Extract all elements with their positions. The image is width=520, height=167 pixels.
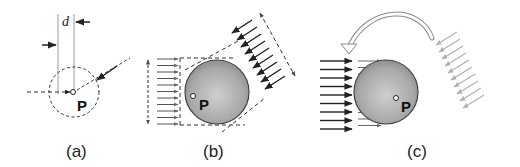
point-p-marker [394,96,399,101]
point-p-marker [191,94,196,99]
incident-arrows-oblique-faded [436,32,484,108]
incident-arrows-dark [320,61,352,129]
oblique-width-arrow [260,13,295,76]
rotation-arrow-head [341,44,357,54]
incident-arrows-horizontal [157,59,178,124]
panel-a-caption: (a) [66,142,87,161]
sphere [185,60,249,124]
panel-b-caption: (b) [203,142,224,161]
panel-a: d P (a) [27,14,130,161]
figure: d P (a) [0,0,520,167]
point-p-label: P [401,98,411,115]
dashed-ray [77,58,130,90]
panel-c: P (c) [320,14,484,161]
point-p-label: P [199,96,209,113]
point-p-marker [71,90,76,95]
oblique-arrow [97,66,117,80]
panel-b: P (b) [148,13,295,161]
distance-label: d [62,14,70,29]
panel-c-caption: (c) [407,142,427,161]
point-p-label: P [77,97,87,114]
